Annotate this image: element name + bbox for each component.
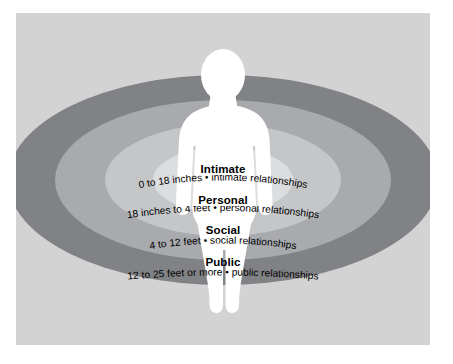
zone-label-public: Public 12 to 25 feet or more • public re…	[16, 256, 430, 290]
zone-description-social-text: 4 to 12 feet • social relationships	[149, 236, 298, 251]
zone-description-intimate-text: 0 to 18 inches • intimate relationships	[138, 175, 309, 190]
zone-label-social: Social 4 to 12 feet • social relationshi…	[16, 224, 430, 258]
zone-title-intimate: Intimate	[16, 163, 430, 175]
zone-description-personal-text: 18 inches to 4 feet • personal relations…	[126, 206, 320, 220]
svg-text:12 to 25 feet or more • public: 12 to 25 feet or more • public relations…	[127, 268, 319, 282]
svg-text:0 to 18 inches • intimate rela: 0 to 18 inches • intimate relationships	[138, 175, 309, 190]
svg-text:4 to 12 feet • social relation: 4 to 12 feet • social relationships	[149, 236, 298, 251]
zone-labels-layer: Intimate 0 to 18 inches • intimate relat…	[16, 13, 430, 345]
zone-title-public: Public	[16, 256, 430, 268]
zone-title-social: Social	[16, 224, 430, 236]
proxemic-zones-diagram: Intimate 0 to 18 inches • intimate relat…	[0, 0, 453, 364]
zone-title-personal: Personal	[16, 194, 430, 206]
zone-description-public: 12 to 25 feet or more • public relations…	[16, 268, 430, 290]
zone-label-personal: Personal 18 inches to 4 feet • personal …	[16, 194, 430, 228]
zone-description-social: 4 to 12 feet • social relationships	[16, 236, 430, 258]
diagram-panel: Intimate 0 to 18 inches • intimate relat…	[16, 13, 430, 345]
zone-label-intimate: Intimate 0 to 18 inches • intimate relat…	[16, 163, 430, 197]
zone-description-public-text: 12 to 25 feet or more • public relations…	[127, 268, 319, 282]
svg-text:18 inches to 4 feet • personal: 18 inches to 4 feet • personal relations…	[126, 206, 320, 220]
